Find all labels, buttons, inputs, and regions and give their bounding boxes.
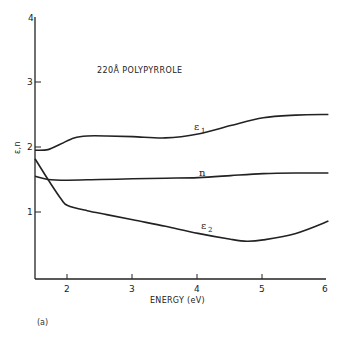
x-tick-label: 2 — [64, 284, 70, 294]
eps2-symbol: ε — [201, 220, 206, 231]
curve-eps1 — [35, 115, 328, 151]
curve-eps2 — [35, 159, 328, 242]
y-axis-title: ε,n — [13, 141, 22, 154]
eps2-subscript: 2 — [208, 226, 212, 234]
y-tick-label: 1 — [27, 207, 33, 217]
y-tick-labels: 1 2 3 4 — [27, 13, 34, 217]
label-n: n — [199, 167, 206, 178]
y-tick-label: 2 — [27, 142, 33, 152]
x-tick-label: 6 — [322, 284, 328, 294]
label-eps2: ε 2 — [201, 220, 212, 234]
y-tick-label: 4 — [28, 13, 34, 23]
x-tick-labels: 2 3 4 5 6 — [64, 284, 328, 294]
panel-label: (a) — [37, 318, 48, 327]
y-tick-label: 3 — [27, 77, 33, 87]
chart-canvas: 1 2 3 4 2 3 4 5 6 ENERGY (eV) ε,n 220Å P… — [0, 0, 341, 344]
x-tick-label: 3 — [129, 284, 135, 294]
eps1-subscript: 1 — [201, 127, 205, 135]
x-ticks — [67, 274, 262, 279]
x-tick-label: 5 — [259, 284, 265, 294]
chart-title: 220Å POLYPYRROLE — [97, 64, 183, 75]
curve-n — [35, 173, 328, 180]
y-ticks — [35, 82, 41, 212]
eps1-symbol: ε — [194, 121, 199, 132]
x-axis-title: ENERGY (eV) — [150, 296, 205, 305]
x-tick-label: 4 — [194, 284, 200, 294]
